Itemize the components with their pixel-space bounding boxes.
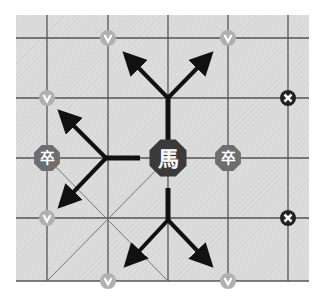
valid-move-marker[interactable]: [220, 30, 236, 46]
piece-soldier-right[interactable]: 卒: [215, 145, 241, 171]
blocked-move-marker: [280, 90, 296, 106]
piece-label: 卒: [40, 149, 55, 166]
janggi-board: 馬卒卒: [0, 0, 323, 302]
piece-label: 馬: [158, 147, 179, 171]
valid-move-marker[interactable]: [39, 90, 55, 106]
valid-move-marker[interactable]: [220, 273, 236, 289]
blocked-move-marker: [280, 210, 296, 226]
piece-horse[interactable]: 馬: [150, 140, 187, 177]
valid-move-marker[interactable]: [100, 30, 116, 46]
piece-soldier-left[interactable]: 卒: [34, 145, 60, 171]
valid-move-marker[interactable]: [39, 210, 55, 226]
valid-move-marker[interactable]: [100, 273, 116, 289]
piece-label: 卒: [221, 149, 236, 166]
